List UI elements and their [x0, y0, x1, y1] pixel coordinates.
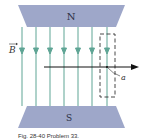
magnet-field-diagram: N B a S — [0, 0, 142, 139]
south-label: S — [66, 113, 72, 123]
point-a: a — [106, 66, 126, 82]
figure-caption: Fig. 28-40 Problem 33. — [18, 133, 79, 139]
point-a-label: a — [121, 73, 126, 82]
b-field-text: B — [8, 45, 16, 55]
north-label: N — [67, 11, 76, 22]
north-pole: N — [18, 5, 125, 27]
south-pole: S — [18, 106, 125, 128]
b-field-label: B — [8, 43, 18, 55]
